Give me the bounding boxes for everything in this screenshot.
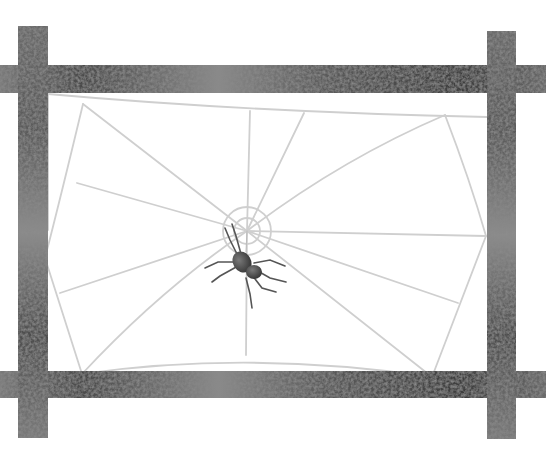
top-bar: [0, 65, 546, 93]
stick-frame: [0, 26, 546, 439]
bottom-bar: [0, 371, 546, 398]
right-post: [487, 31, 516, 439]
spider-head: [246, 265, 262, 279]
spider-web-illustration: [0, 0, 546, 468]
spider: [205, 224, 286, 308]
spider-web: [45, 94, 487, 377]
left-post: [18, 26, 48, 438]
